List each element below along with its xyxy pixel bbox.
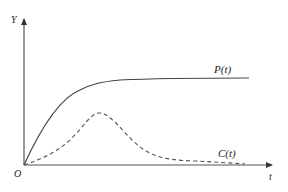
y-axis-label: Y [11,14,18,25]
chart-canvas: Y t O P(t) C(t) [0,0,288,192]
c-curve [24,113,245,165]
origin-label: O [14,168,21,179]
p-curve [24,78,249,165]
c-curve-label: C(t) [218,147,236,160]
x-axis-label: t [269,171,272,182]
p-curve-label: P(t) [213,63,231,76]
